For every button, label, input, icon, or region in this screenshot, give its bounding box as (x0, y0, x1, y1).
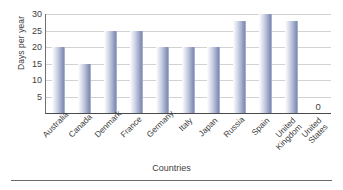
bar-slot (47, 14, 71, 113)
x-tick-labels-group: AustraliaCanadaDenmarkFranceGermanyItaly… (45, 114, 330, 166)
bar-slot (125, 14, 149, 113)
y-tick-label: 25 (32, 26, 42, 36)
bars-group: 0 (46, 14, 331, 113)
bar-slot (151, 14, 175, 113)
bar-slot (280, 14, 304, 113)
x-tick-label: Russia (222, 116, 246, 140)
bottom-divider (11, 180, 332, 181)
bar-slot (177, 14, 201, 113)
bar-slot (202, 14, 226, 113)
bar (207, 47, 220, 113)
y-tick-label: 5 (37, 92, 42, 102)
x-tick-label: Japan (196, 116, 220, 140)
bar-slot (99, 14, 123, 113)
x-tick-label: Spain (248, 116, 272, 140)
bar (233, 21, 246, 113)
y-tick-label: 15 (32, 59, 42, 69)
x-tick-label: France (119, 116, 143, 140)
x-tick-label: Canada (67, 116, 91, 140)
bar-chart-figure: Days per year 51015202530 0 AustraliaCan… (0, 0, 343, 190)
x-tick-label: Italy (171, 116, 195, 140)
plot-area: 51015202530 0 (45, 14, 331, 114)
y-axis-title: Days per year (16, 0, 26, 88)
bar-slot (254, 14, 278, 113)
bar (285, 21, 298, 113)
bar (104, 31, 117, 114)
bar (156, 47, 169, 113)
x-tick-label: Denmark (93, 116, 117, 140)
bar-slot (228, 14, 252, 113)
x-axis-title: Countries (0, 163, 343, 173)
bar-slot: 0 (306, 14, 330, 113)
y-tick-label: 10 (32, 75, 42, 85)
bar (52, 47, 65, 113)
y-tick-label: 20 (32, 42, 42, 52)
bar-value-label: 0 (306, 101, 330, 112)
bar (259, 14, 272, 113)
bar (78, 64, 91, 114)
bar (182, 47, 195, 113)
bar (130, 31, 143, 114)
bar-slot (73, 14, 97, 113)
y-tick-label: 30 (32, 9, 42, 19)
x-tick-label: Germany (145, 116, 169, 140)
x-tick-label: Australia (41, 116, 65, 140)
